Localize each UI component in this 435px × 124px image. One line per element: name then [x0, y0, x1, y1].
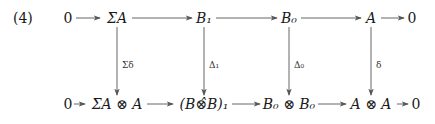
node-sigma-a-tensor-a: ΣA ⊗ A [92, 96, 143, 112]
node-b0-tensor-b0: B₀ ⊗ B₀ [263, 96, 315, 112]
node-b-hat-tensor-b-1: (B⊗̂B)₁ [180, 96, 229, 112]
node-b0: B₀ [281, 10, 297, 26]
label-delta-0: Δ₀ [294, 60, 304, 70]
label-delta-1: Δ₁ [209, 60, 219, 70]
node-top-zero-right: 0 [408, 10, 417, 26]
node-bottom-zero-left: 0 [64, 96, 73, 112]
node-bottom-zero-right: 0 [412, 96, 421, 112]
node-b1: B₁ [196, 10, 212, 26]
label-sigma-delta: Σδ [122, 60, 134, 70]
node-a: A [366, 10, 376, 26]
node-sigma-a: ΣA [107, 10, 127, 26]
node-a-tensor-a: A ⊗ A [351, 96, 392, 112]
node-top-zero-left: 0 [64, 10, 73, 26]
label-delta: δ [376, 60, 381, 70]
